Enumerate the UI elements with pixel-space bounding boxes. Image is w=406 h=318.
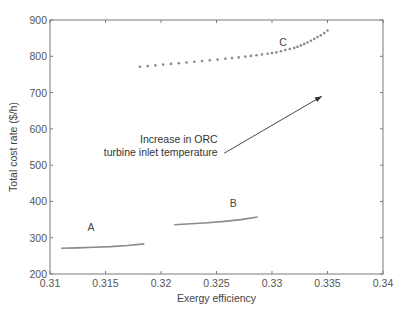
data-point bbox=[170, 63, 173, 66]
series-a-line bbox=[61, 244, 144, 248]
data-point bbox=[162, 63, 165, 66]
data-point bbox=[178, 62, 181, 65]
annotation-text-line: turbine inlet temperature bbox=[104, 146, 218, 158]
data-point bbox=[250, 55, 253, 58]
data-point bbox=[316, 36, 319, 39]
data-point bbox=[261, 53, 264, 56]
data-point bbox=[300, 44, 303, 47]
y-tick-label: 900 bbox=[29, 14, 47, 26]
data-point bbox=[323, 32, 326, 35]
data-point bbox=[244, 55, 247, 58]
y-tick-label: 600 bbox=[29, 123, 47, 135]
series-c-dots bbox=[139, 29, 329, 68]
data-point bbox=[185, 61, 188, 64]
data-point bbox=[326, 29, 329, 32]
series-label-a: A bbox=[88, 221, 95, 233]
data-point bbox=[209, 59, 212, 62]
y-tick-label: 200 bbox=[29, 268, 47, 280]
data-point bbox=[289, 48, 292, 51]
data-point bbox=[280, 50, 283, 53]
y-tick-label: 700 bbox=[29, 87, 47, 99]
x-axis-title: Exergy efficiency bbox=[177, 292, 257, 304]
data-point bbox=[237, 56, 240, 59]
data-point bbox=[231, 57, 234, 60]
x-tick-label: 0.33 bbox=[262, 277, 283, 289]
x-tick-label: 0.315 bbox=[92, 277, 118, 289]
y-tick-label: 800 bbox=[29, 50, 47, 62]
data-point bbox=[310, 39, 313, 42]
y-axis-title: Total cost rate ($/h) bbox=[7, 102, 19, 192]
data-point bbox=[320, 34, 323, 37]
data-point bbox=[284, 49, 287, 52]
data-point bbox=[201, 60, 204, 63]
series-label-b: B bbox=[230, 197, 237, 209]
data-point bbox=[306, 41, 309, 44]
annotation-text-line: Increase in ORC bbox=[140, 133, 218, 145]
chart-figure: 0.310.3150.320.3250.330.3350.34 20030040… bbox=[0, 0, 406, 318]
x-tick-label: 0.335 bbox=[314, 277, 340, 289]
arrow-head-icon bbox=[315, 96, 322, 102]
data-point bbox=[146, 65, 149, 68]
annotation-layer: ABCIncrease in ORCturbine inlet temperat… bbox=[88, 36, 322, 233]
data-point bbox=[296, 46, 299, 49]
data-point bbox=[154, 64, 157, 67]
y-tick-label: 300 bbox=[29, 232, 47, 244]
x-tick-label: 0.34 bbox=[373, 277, 394, 289]
x-tick-label: 0.32 bbox=[151, 277, 172, 289]
data-point bbox=[303, 43, 306, 46]
y-tick-label: 400 bbox=[29, 195, 47, 207]
data-point bbox=[271, 52, 274, 55]
data-point bbox=[139, 66, 142, 69]
data-point bbox=[216, 58, 219, 61]
data-point bbox=[266, 52, 269, 55]
data-point bbox=[224, 58, 227, 61]
series-label-c: C bbox=[279, 36, 287, 48]
data-point bbox=[313, 38, 316, 41]
annotation-arrow-line bbox=[224, 96, 322, 153]
data-point bbox=[255, 54, 258, 57]
data-point bbox=[193, 60, 196, 63]
data-point bbox=[275, 51, 278, 54]
data-point bbox=[293, 47, 296, 50]
x-tick-label: 0.325 bbox=[203, 277, 229, 289]
series-b-line bbox=[174, 217, 257, 225]
y-tick-label: 500 bbox=[29, 159, 47, 171]
